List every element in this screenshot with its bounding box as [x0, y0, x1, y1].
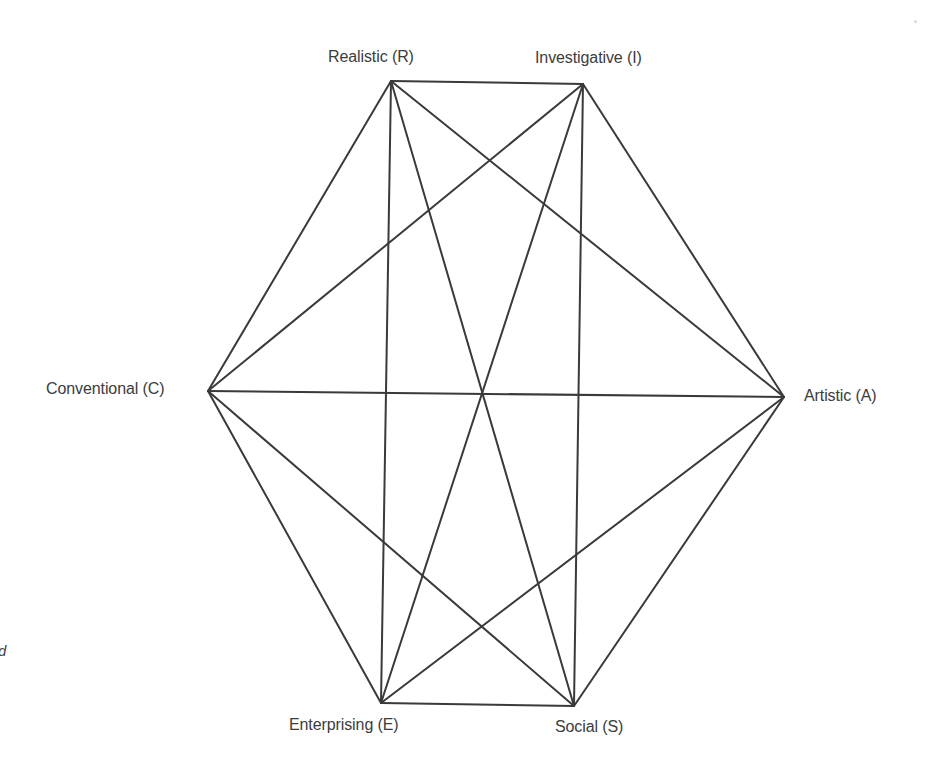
edge-R-A [391, 81, 784, 397]
node-label-realistic: Realistic (R) [328, 49, 414, 65]
edge-A-E [381, 397, 784, 703]
scan-speck [914, 20, 917, 23]
node-label-investigative: Investigative (I) [535, 50, 642, 66]
node-label-conventional: Conventional (C) [46, 381, 164, 397]
edge-R-I [391, 81, 583, 84]
edge-S-C [208, 391, 574, 706]
node-label-enterprising: Enterprising (E) [289, 717, 399, 733]
edge-I-A [583, 84, 784, 397]
edge-I-C [208, 84, 583, 391]
node-label-social: Social (S) [555, 719, 623, 735]
cropped-text-fragment: d [0, 643, 6, 658]
edge-R-C [208, 81, 391, 391]
edge-lines [208, 81, 784, 706]
edge-A-C [208, 391, 784, 397]
edge-S-E [381, 703, 574, 706]
node-label-artistic: Artistic (A) [804, 388, 877, 404]
edge-E-C [208, 391, 381, 703]
edge-A-S [574, 397, 784, 706]
